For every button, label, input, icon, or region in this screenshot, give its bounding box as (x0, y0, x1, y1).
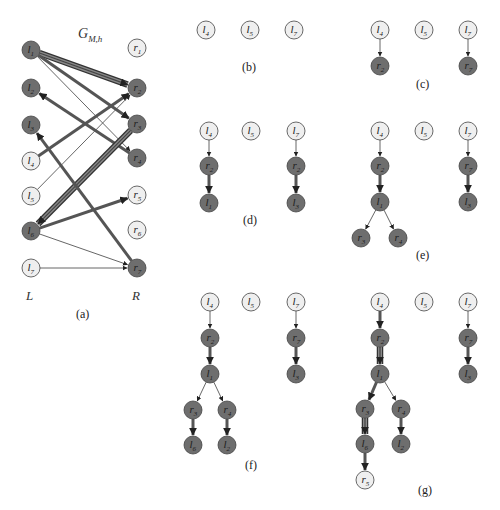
node-r7: r7 (459, 157, 477, 175)
node-l6: l6 (356, 435, 374, 453)
node-l5: l5 (415, 293, 433, 311)
node-r7: r7 (459, 57, 477, 75)
panel-e: l4l5l7r2r7l1l3r3r4(e) (352, 122, 477, 262)
node-r1: r1 (128, 39, 146, 57)
node-l4: l4 (201, 293, 219, 311)
panel-caption-g: (g) (418, 483, 432, 497)
node-l7: l7 (459, 293, 477, 311)
node-l3: l3 (459, 193, 477, 211)
node-l4: l4 (371, 122, 389, 140)
bipartite-nodes: l1l2l3l4l5l6l7r1r2r3r4r5r6r7 (22, 39, 146, 277)
node-l1: l1 (200, 194, 218, 212)
node-r2: r2 (371, 57, 389, 75)
node-r6: r6 (128, 221, 146, 239)
node-l4: l4 (371, 293, 389, 311)
node-l4: l4 (200, 122, 218, 140)
panel-caption-d: (d) (243, 213, 257, 227)
panel-caption-c: (c) (416, 77, 429, 91)
node-l7: l7 (285, 21, 303, 39)
node-r5: r5 (356, 471, 374, 489)
node-l1: l1 (201, 365, 219, 383)
edge-l1-r3 (38, 55, 128, 118)
node-l5: l5 (242, 293, 260, 311)
node-l6: l6 (22, 222, 40, 240)
edge-l1-r3 (366, 210, 376, 229)
panel-edges (209, 140, 296, 193)
node-l4: l4 (371, 21, 389, 39)
node-l4: l4 (197, 21, 215, 39)
node-r5: r5 (128, 186, 146, 204)
node-r7: r7 (287, 329, 305, 347)
node-l7: l7 (459, 122, 477, 140)
alternating-trees: l4l5l7(b)l4l5l7r2r7(c)l4l5l7r2r2l1l3(d)l… (184, 21, 477, 497)
node-l7: l7 (287, 293, 305, 311)
edge-r7-l3 (37, 133, 132, 261)
node-l3: l3 (287, 365, 305, 383)
panel-caption-b: (b) (242, 60, 256, 74)
panel-nodes: l4l5l7r2r7l1l3r3r4l6l2 (184, 293, 305, 454)
figure-canvas: GM,h l1l2l3l4l5l6l7r1r2r3r4r5r6r7 L R (a… (0, 0, 500, 510)
node-r2: r2 (200, 157, 218, 175)
panel-caption-a: (a) (76, 307, 89, 321)
panel-b: l4l5l7(b) (197, 21, 303, 74)
panel-g: l4l5l7r2r7l1l3r3r4l6l2r5(g) (356, 293, 477, 497)
node-l2: l2 (22, 79, 40, 97)
node-l2: l2 (218, 436, 236, 454)
node-r3: r3 (184, 401, 202, 419)
node-r3: r3 (352, 229, 370, 247)
node-l1: l1 (371, 193, 389, 211)
panel-edges (380, 39, 468, 56)
node-r2: r2 (201, 329, 219, 347)
node-l5: l5 (241, 21, 259, 39)
panel-c: l4l5l7r2r7(c) (371, 21, 477, 91)
edge-l1-r4 (214, 382, 223, 401)
node-r3: r3 (356, 400, 374, 418)
right-side-label: R (131, 288, 140, 303)
panel-d: l4l5l7r2r2l1l3(d) (200, 122, 305, 227)
bipartite-edges (37, 53, 132, 268)
panel-nodes: l4l5l7 (197, 21, 303, 39)
node-l3: l3 (459, 365, 477, 383)
panel-a: GM,h l1l2l3l4l5l6l7r1r2r3r4r5r6r7 L R (a… (22, 26, 146, 321)
panel-edges (366, 140, 468, 229)
node-l7: l7 (459, 21, 477, 39)
edge-l1-r4 (384, 210, 394, 229)
node-r4: r4 (392, 400, 410, 418)
left-side-label: L (25, 288, 33, 303)
panel-caption-f: (f) (245, 458, 257, 472)
panel-caption-e: (e) (416, 248, 429, 262)
panel-nodes: l4l5l7r2r7 (371, 21, 477, 75)
panel-nodes: l4l5l7r2r2l1l3 (200, 122, 305, 212)
node-l5: l5 (242, 122, 260, 140)
edge-l1-r2 (39, 53, 127, 85)
node-r7: r7 (459, 329, 477, 347)
node-l3: l3 (287, 194, 305, 212)
node-l1: l1 (22, 41, 40, 59)
node-l1: l1 (371, 365, 389, 383)
panel-f: l4l5l7r2r7l1l3r3r4l6l2(f) (184, 293, 305, 472)
node-l4: l4 (22, 152, 40, 170)
node-l7: l7 (22, 259, 40, 277)
node-r3: r3 (128, 115, 146, 133)
node-l6: l6 (184, 436, 202, 454)
node-r2: r2 (371, 329, 389, 347)
edge-r3-l6 (38, 130, 131, 224)
graph-title: GM,h (78, 26, 103, 44)
graph-title-subscript: M,h (87, 34, 103, 44)
node-l5: l5 (415, 122, 433, 140)
panel-nodes: l4l5l7r2r7l1l3r3r4 (352, 122, 477, 247)
edge-l1-r4 (385, 382, 396, 401)
edge-l1-r3 (197, 382, 206, 401)
node-r4: r4 (218, 401, 236, 419)
node-l5: l5 (22, 187, 40, 205)
node-r4: r4 (389, 229, 407, 247)
node-r2: r2 (371, 157, 389, 175)
edge-l1-r3 (369, 382, 377, 400)
node-r4: r4 (128, 149, 146, 167)
node-r7: r7 (128, 259, 146, 277)
node-l2: l2 (392, 435, 410, 453)
node-r2: r2 (128, 79, 146, 97)
node-r2: r2 (287, 157, 305, 175)
node-l3: l3 (22, 116, 40, 134)
node-l7: l7 (287, 122, 305, 140)
